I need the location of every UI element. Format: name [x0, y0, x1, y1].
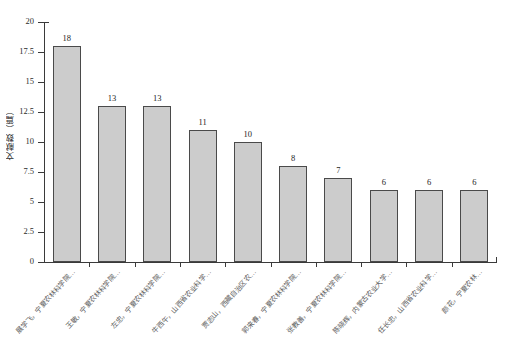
y-tick-mark: [38, 232, 44, 233]
bar: [189, 130, 217, 262]
bar-value-label: 7: [318, 166, 358, 175]
bar-value-label: 6: [454, 178, 494, 187]
bar-value-label: 13: [137, 94, 177, 103]
bar-chart: 文献数（篇） 2017.51512.5107.552.50 1813131110…: [0, 0, 516, 362]
bar: [234, 142, 262, 262]
y-tick-mark: [38, 22, 44, 23]
y-tick-mark: [38, 172, 44, 173]
bar-value-label: 13: [92, 94, 132, 103]
bar-value-label: 11: [183, 118, 223, 127]
y-tick-mark: [38, 82, 44, 83]
y-axis-top-cap: [44, 22, 49, 23]
y-tick-label: 0: [0, 257, 34, 266]
bar: [415, 190, 443, 262]
bar: [370, 190, 398, 262]
y-tick-label: 17.5: [0, 47, 34, 56]
y-tick-mark: [38, 202, 44, 203]
x-tick-mark: [180, 262, 181, 267]
x-axis-right-cap: [496, 257, 497, 263]
x-tick-mark: [316, 262, 317, 267]
x-tick-mark: [406, 262, 407, 267]
y-tick-label: 5: [0, 197, 34, 206]
y-tick-label: 10: [0, 137, 34, 146]
bar-value-label: 6: [409, 178, 449, 187]
y-tick-label: 2.5: [0, 227, 34, 236]
x-tick-mark: [225, 262, 226, 267]
y-tick-mark: [38, 112, 44, 113]
y-tick-label: 12.5: [0, 107, 34, 116]
y-axis-line: [44, 22, 45, 263]
bar: [460, 190, 488, 262]
x-tick-mark: [361, 262, 362, 267]
bar-value-label: 8: [273, 154, 313, 163]
y-tick-label: 20: [0, 17, 34, 26]
y-tick-mark: [38, 142, 44, 143]
bar: [98, 106, 126, 262]
bar: [53, 46, 81, 262]
bar-value-label: 18: [47, 34, 87, 43]
x-tick-mark: [135, 262, 136, 267]
x-tick-mark: [89, 262, 90, 267]
y-tick-mark: [38, 52, 44, 53]
x-tick-mark: [271, 262, 272, 267]
bar-value-label: 6: [364, 178, 404, 187]
bar: [143, 106, 171, 262]
y-tick-label: 15: [0, 77, 34, 86]
bar: [279, 166, 307, 262]
bar-value-label: 10: [228, 130, 268, 139]
bar: [324, 178, 352, 262]
x-tick-mark: [452, 262, 453, 267]
y-tick-label: 7.5: [0, 167, 34, 176]
y-tick-mark: [38, 262, 44, 263]
